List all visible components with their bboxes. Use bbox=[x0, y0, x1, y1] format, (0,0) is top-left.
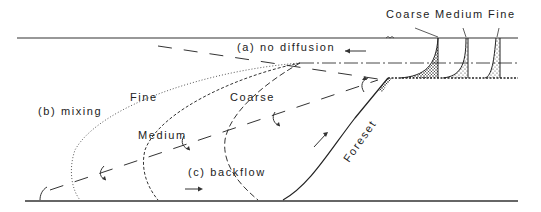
bottom-left-arc bbox=[40, 187, 47, 200]
label-mixing: (b) mixing bbox=[38, 105, 102, 117]
curved-arrow-icon bbox=[362, 78, 368, 92]
fine-profile bbox=[485, 28, 500, 78]
coarse-dashed-curve bbox=[225, 63, 300, 200]
arrow-right-icon bbox=[198, 187, 203, 192]
arrow-left-icon bbox=[345, 49, 350, 54]
label-top-fine: Fine bbox=[488, 8, 516, 20]
label-fine-curve: Fine bbox=[130, 91, 158, 103]
foreset-slope bbox=[283, 78, 388, 200]
label-top-medium: Medium bbox=[435, 8, 484, 20]
foreset-stippled-top bbox=[378, 78, 392, 92]
delta-sedimentation-diagram: Coarse Medium Fine (a) no diffusion (b) … bbox=[0, 0, 541, 212]
label-backflow: (c) backflow bbox=[188, 166, 266, 178]
label-foreset: Foreset bbox=[341, 118, 379, 165]
coarse-profile bbox=[400, 28, 438, 78]
label-coarse-curve: Coarse bbox=[230, 91, 275, 103]
medium-profile bbox=[443, 28, 468, 78]
label-top-coarse: Coarse bbox=[386, 8, 431, 20]
upslope-arrow bbox=[314, 134, 326, 147]
label-medium-curve: Medium bbox=[138, 129, 187, 141]
label-no-diffusion: (a) no diffusion bbox=[237, 41, 335, 53]
